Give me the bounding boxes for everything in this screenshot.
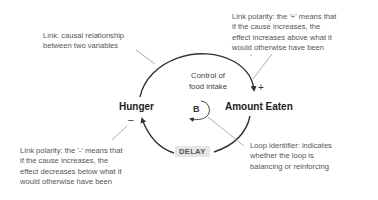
leader-positive-polarity-2 [253,54,272,79]
annotation-loop-line2: whether the loop is [250,151,332,161]
leader-link [136,50,155,64]
node-hunger: Hunger [119,101,154,112]
annotation-positive-line2: if the cause increases, the [232,22,336,32]
polarity-positive: + [258,82,264,93]
loop-identifier-b: B [193,104,200,114]
annotation-positive-line1: Link polarity: the '+' means that [232,12,336,22]
node-amount-eaten: Amount Eaten [225,101,293,112]
leader-negative-polarity [112,126,127,140]
annotation-link: Link: causal relationship between two va… [43,31,124,52]
annotation-loop-identifier: Loop identifier: indicates whether the l… [250,141,332,172]
annotation-link-line2: between two variables [43,41,124,51]
loop-label-line1: Control of [178,71,238,82]
link-arc-delay-to-hunger [142,119,174,153]
loop-label-line2: food intake [178,82,238,93]
delay-marker: DELAY [175,146,210,157]
annotation-positive-line4: would otherwise have been [232,43,336,53]
annotation-negative-line1: Link polarity: the '-' means that [20,146,123,156]
annotation-negative-line4: would otherwise have been [20,177,123,187]
leader-loop-identifier [208,117,244,146]
annotation-link-line1: Link: causal relationship [43,31,124,41]
annotation-negative-polarity: Link polarity: the '-' means that if the… [20,146,123,187]
annotation-negative-line2: if the cause increases, the [20,156,123,166]
link-arc-amount-eaten-to-hunger [214,116,250,152]
annotation-positive-polarity: Link polarity: the '+' means that if the… [232,12,336,53]
polarity-negative: – [128,114,134,125]
annotation-loop-line3: balancing or reinforcing [250,162,332,172]
annotation-loop-line1: Loop identifier: indicates [250,141,332,151]
annotation-negative-line3: effect decreases below what it [20,167,123,177]
causal-loop-diagram: Link: causal relationship between two va… [0,0,378,200]
annotation-positive-line3: effect increases above what it [232,33,336,43]
loop-label: Control of food intake [178,71,238,92]
